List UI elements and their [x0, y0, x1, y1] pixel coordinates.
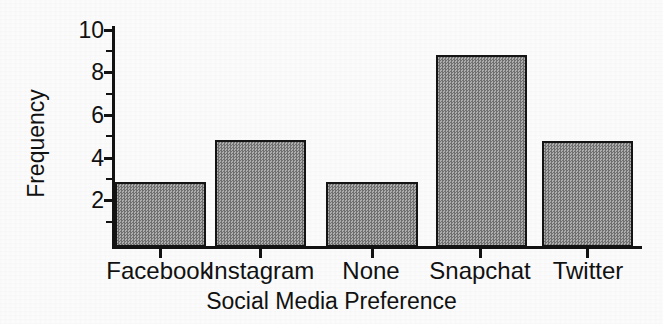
bar-twitter[interactable]	[542, 141, 633, 247]
y-tick-label-2-wrap: 2	[50, 189, 104, 212]
x-category-label-instagram: Instagram	[200, 257, 322, 285]
y-tick-major-10	[104, 29, 115, 32]
bar-facebook[interactable]	[115, 182, 206, 247]
y-tick-minor-7	[106, 93, 113, 95]
y-tick-major-4	[104, 157, 115, 160]
bar-none[interactable]	[326, 182, 418, 247]
y-tick-minor-5	[106, 135, 113, 137]
y-axis-title: Frequency	[23, 64, 50, 224]
y-tick-minor-9	[106, 50, 113, 52]
y-tick-minor-1	[106, 221, 113, 223]
y-tick-minor-3	[106, 178, 113, 180]
bar-chart-figure: 10 8 6 4 2 Facebook Instagram None Snapc…	[0, 0, 663, 324]
x-category-label-none: None	[323, 257, 419, 285]
y-tick-label-10-wrap: 10	[50, 19, 104, 42]
y-tick-label-4-wrap: 4	[50, 147, 104, 170]
plot-area: 10 8 6 4 2 Facebook Instagram None Snapc…	[0, 0, 663, 324]
y-tick-major-6	[104, 114, 115, 117]
x-axis-title: Social Media Preference	[0, 288, 663, 315]
y-tick-label-2: 2	[60, 189, 104, 212]
bar-instagram[interactable]	[215, 140, 306, 247]
y-tick-label-4: 4	[60, 147, 104, 170]
y-tick-label-10: 10	[60, 19, 104, 42]
y-tick-label-8: 8	[60, 61, 104, 84]
y-tick-label-6-wrap: 6	[50, 104, 104, 127]
y-tick-major-8	[104, 71, 115, 74]
x-category-label-snapchat: Snapchat	[420, 257, 540, 285]
bar-snapchat[interactable]	[436, 55, 527, 247]
y-tick-label-6: 6	[60, 104, 104, 127]
y-tick-label-8-wrap: 8	[50, 61, 104, 84]
x-category-label-twitter: Twitter	[538, 257, 638, 285]
y-tick-major-2	[104, 199, 115, 202]
